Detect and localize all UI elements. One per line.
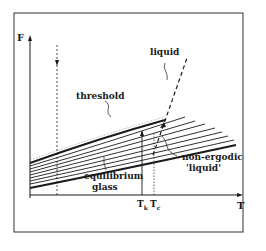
non-ergodic-label: non-ergodic [182, 153, 243, 162]
liquid-leader [164, 63, 167, 80]
non-ergodic-label-2: 'liquid' [186, 164, 221, 173]
glass-label: glass [92, 183, 118, 192]
equilibrium-label: equilibrium [84, 172, 143, 181]
liquid-label: liquid [150, 48, 179, 57]
free-energy-diagram [0, 0, 266, 251]
figure-border [14, 13, 243, 232]
x-axis-arrow-icon [237, 193, 243, 197]
tick-tk: Tk [137, 200, 148, 211]
x-axis-label: T [237, 201, 244, 211]
tick-tc: Tc [150, 200, 160, 211]
y-axis-arrow-icon [28, 35, 32, 41]
threshold-leader [105, 101, 111, 117]
threshold-label: threshold [76, 92, 125, 101]
y-axis-label: F [17, 33, 24, 43]
diagram-figure: F T Tk Tc liquid threshold non-ergodic '… [0, 0, 266, 251]
liquid-line [153, 58, 187, 155]
cooling-arrow-icon [55, 60, 59, 66]
